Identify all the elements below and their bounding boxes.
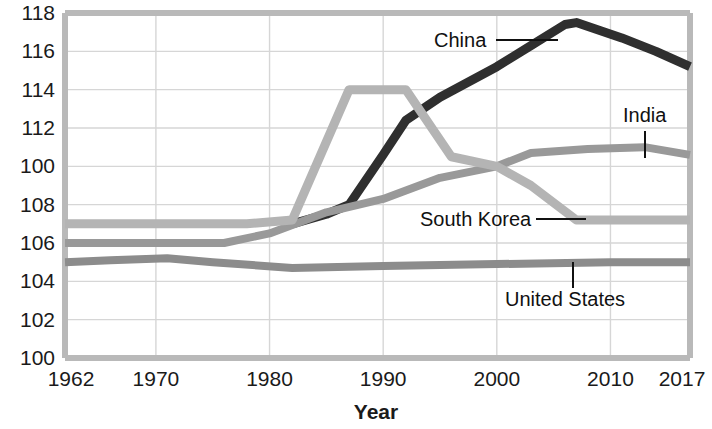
x-axis-title: Year [354, 400, 398, 423]
x-axis-tick-labels: 1962197019801990200020102017 [48, 367, 706, 390]
y-axis-tick-label: 102 [20, 308, 55, 331]
y-axis-tick-label: 100 [20, 346, 55, 369]
y-axis-tick-label: 114 [22, 78, 56, 101]
x-axis-tick-label: 1962 [48, 367, 95, 390]
series-label-china: China [434, 29, 487, 51]
y-axis-tick-label: 116 [22, 39, 55, 62]
x-axis-tick-label: 1980 [246, 367, 293, 390]
y-axis-tick-label: 104 [20, 269, 55, 292]
y-axis-tick-label: 100 [20, 154, 55, 177]
x-axis-tick-label: 2010 [587, 367, 634, 390]
series-label-united-states: United States [505, 288, 625, 310]
series-label-south-korea: South Korea [420, 208, 532, 230]
y-axis-tick-label: 118 [22, 1, 55, 24]
series-label-india: India [623, 104, 667, 126]
x-axis-tick-label: 1990 [360, 367, 407, 390]
y-axis-tick-label: 106 [20, 231, 55, 254]
x-axis-tick-label: 1970 [133, 367, 180, 390]
y-axis-tick-label: 108 [20, 193, 55, 216]
x-axis-tick-label: 2000 [473, 367, 520, 390]
chart-canvas: 100102104106108100112114116118 196219701… [0, 0, 712, 429]
chart-background [0, 0, 712, 429]
line-chart: 100102104106108100112114116118 196219701… [0, 0, 712, 429]
y-axis-tick-label: 112 [22, 116, 55, 139]
x-axis-tick-label: 2017 [659, 367, 706, 390]
